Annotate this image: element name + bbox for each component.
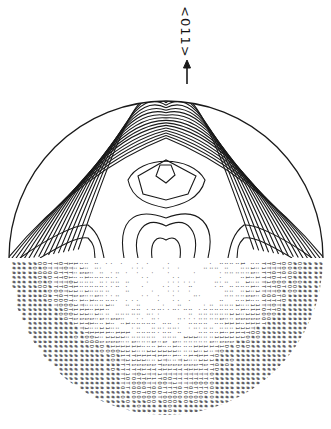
svg-text:#: # bbox=[245, 382, 251, 386]
svg-text:T: T bbox=[193, 372, 199, 375]
svg-text:#: # bbox=[53, 359, 59, 363]
svg-text:O: O bbox=[188, 391, 194, 394]
svg-text:#: # bbox=[302, 303, 308, 307]
svg-text:O: O bbox=[209, 372, 215, 375]
svg-text:.: . bbox=[193, 280, 199, 283]
svg-text:#: # bbox=[281, 354, 287, 358]
svg-text:1: 1 bbox=[131, 340, 137, 343]
svg-text:#: # bbox=[219, 386, 225, 390]
svg-text:T: T bbox=[84, 331, 90, 334]
svg-text::: : bbox=[141, 349, 147, 352]
svg-text:T: T bbox=[151, 368, 157, 371]
svg-text:#: # bbox=[32, 294, 38, 298]
svg-text::: : bbox=[136, 322, 142, 325]
svg-text:#: # bbox=[99, 377, 105, 381]
svg-text:O: O bbox=[177, 395, 183, 398]
svg-text:#: # bbox=[105, 354, 111, 358]
svg-text:1: 1 bbox=[79, 317, 85, 320]
svg-text:#: # bbox=[73, 354, 79, 358]
svg-text::: : bbox=[115, 313, 121, 316]
svg-text:#: # bbox=[287, 313, 293, 317]
svg-text:.: . bbox=[177, 290, 183, 293]
svg-text:1: 1 bbox=[183, 359, 189, 362]
svg-text:1: 1 bbox=[255, 290, 261, 293]
svg-text::: : bbox=[250, 290, 256, 293]
svg-text:1: 1 bbox=[219, 340, 225, 343]
svg-text:#: # bbox=[292, 322, 298, 326]
svg-text:O: O bbox=[266, 313, 272, 316]
svg-text:.: . bbox=[188, 280, 194, 283]
svg-text:O: O bbox=[131, 395, 137, 398]
svg-text:#: # bbox=[240, 382, 246, 386]
svg-text::: : bbox=[240, 299, 246, 302]
svg-text::: : bbox=[167, 359, 173, 362]
svg-text:#: # bbox=[84, 372, 90, 376]
svg-text::: : bbox=[131, 336, 137, 339]
svg-text:#: # bbox=[21, 313, 27, 317]
svg-text:1: 1 bbox=[172, 345, 178, 348]
svg-text::: : bbox=[198, 349, 204, 352]
svg-text:#: # bbox=[63, 340, 69, 344]
svg-text::: : bbox=[167, 331, 173, 334]
svg-text:#: # bbox=[27, 322, 33, 326]
svg-text:.: . bbox=[141, 276, 147, 279]
svg-text:O: O bbox=[167, 377, 173, 380]
svg-text:#: # bbox=[302, 331, 308, 335]
svg-text:#: # bbox=[177, 405, 183, 409]
svg-text:#: # bbox=[245, 386, 251, 390]
svg-text:1: 1 bbox=[162, 363, 168, 366]
svg-text::: : bbox=[157, 308, 163, 311]
svg-text:1: 1 bbox=[255, 308, 261, 311]
svg-text::: : bbox=[245, 267, 251, 270]
svg-text:#: # bbox=[224, 400, 230, 404]
svg-text::: : bbox=[224, 290, 230, 293]
svg-text::: : bbox=[105, 299, 111, 302]
svg-text:#: # bbox=[292, 299, 298, 303]
svg-text:#: # bbox=[21, 317, 27, 321]
svg-text:#: # bbox=[21, 262, 27, 266]
svg-text:#: # bbox=[229, 363, 235, 367]
svg-text:#: # bbox=[73, 340, 79, 344]
svg-text:#: # bbox=[53, 336, 59, 340]
svg-text::: : bbox=[131, 308, 137, 311]
svg-text:T: T bbox=[63, 280, 69, 283]
svg-text:#: # bbox=[99, 363, 105, 367]
svg-text:#: # bbox=[16, 290, 22, 294]
svg-text:T: T bbox=[63, 294, 69, 297]
svg-text:#: # bbox=[313, 267, 319, 271]
svg-text::: : bbox=[224, 317, 230, 320]
svg-text:O: O bbox=[68, 303, 74, 306]
svg-text:T: T bbox=[58, 280, 64, 283]
svg-text:O: O bbox=[94, 340, 100, 343]
svg-text::: : bbox=[99, 294, 105, 297]
svg-text:1: 1 bbox=[79, 313, 85, 316]
svg-text:O: O bbox=[188, 395, 194, 398]
svg-text:#: # bbox=[276, 354, 282, 358]
svg-text:#: # bbox=[115, 363, 121, 367]
svg-text:.: . bbox=[177, 308, 183, 311]
svg-text:#: # bbox=[266, 326, 272, 330]
svg-text::: : bbox=[151, 322, 157, 325]
svg-text::: : bbox=[89, 285, 95, 288]
svg-text:#: # bbox=[240, 377, 246, 381]
svg-text:O: O bbox=[89, 336, 95, 339]
svg-text::: : bbox=[99, 290, 105, 293]
direction-label: <011> bbox=[178, 6, 193, 58]
svg-text:O: O bbox=[276, 290, 282, 293]
svg-text:T: T bbox=[172, 372, 178, 375]
svg-text::: : bbox=[110, 331, 116, 334]
svg-text:#: # bbox=[47, 322, 53, 326]
svg-text::: : bbox=[94, 290, 100, 293]
svg-text:.: . bbox=[110, 276, 116, 279]
svg-text:#: # bbox=[21, 303, 27, 307]
svg-text:#: # bbox=[79, 359, 85, 363]
svg-text:#: # bbox=[240, 395, 246, 399]
svg-text:T: T bbox=[63, 290, 69, 293]
svg-text:1: 1 bbox=[235, 322, 241, 325]
svg-text:#: # bbox=[37, 308, 43, 312]
svg-text:#: # bbox=[68, 322, 74, 326]
svg-text::: : bbox=[167, 345, 173, 348]
svg-text::: : bbox=[235, 271, 241, 274]
svg-text::: : bbox=[245, 303, 251, 306]
svg-text:1: 1 bbox=[193, 368, 199, 371]
